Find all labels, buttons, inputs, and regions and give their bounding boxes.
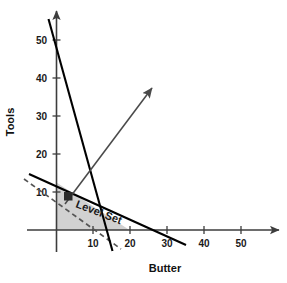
x-tick-label-50: 50: [235, 238, 247, 249]
y-tick-labels: 10 20 30 40 50: [36, 35, 48, 198]
y-axis-title: Tools: [4, 108, 16, 137]
x-tick-label-20: 20: [124, 238, 136, 249]
x-axis-title: Butter: [149, 262, 182, 274]
y-tick-label-30: 30: [36, 111, 48, 122]
chart-canvas: 10 20 30 40 50 10 20 30 40 50 Level Set …: [0, 0, 287, 283]
gradient-vector-arrow: [65, 88, 152, 204]
y-tick-label-40: 40: [36, 73, 48, 84]
y-tick-label-10: 10: [36, 187, 48, 198]
x-tick-label-10: 10: [87, 238, 99, 249]
x-tick-label-30: 30: [161, 238, 173, 249]
optimum-point-marker: [64, 192, 73, 201]
y-tick-label-50: 50: [36, 35, 48, 46]
x-tick-label-40: 40: [198, 238, 210, 249]
y-tick-label-20: 20: [36, 149, 48, 160]
economics-constraint-chart: 10 20 30 40 50 10 20 30 40 50 Level Set …: [0, 0, 287, 283]
